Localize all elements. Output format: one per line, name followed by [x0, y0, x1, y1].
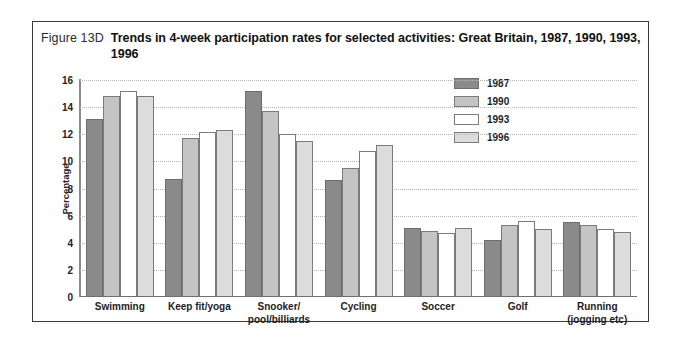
y-tick-label: 12 [62, 129, 73, 140]
bar [182, 138, 199, 297]
y-axis-title: Percentage [60, 163, 71, 214]
bar [376, 145, 393, 297]
figure-title: Trends in 4-week participation rates for… [111, 31, 641, 62]
bar [216, 130, 233, 297]
figure-frame: Figure 13D Trends in 4-week participatio… [32, 21, 649, 322]
x-axis-label: Running (jogging etc) [557, 301, 637, 326]
bar [438, 233, 455, 297]
bar [484, 240, 501, 297]
bar [199, 132, 216, 297]
bar [535, 229, 552, 297]
x-axis-line [80, 296, 637, 298]
bar [421, 231, 438, 297]
bar [137, 96, 154, 297]
figure-number: Figure 13D [41, 31, 111, 45]
bar [501, 225, 518, 297]
y-tick-label: 2 [67, 264, 73, 275]
x-axis-labels: SwimmingKeep fit/yogaSnooker/ pool/billi… [80, 301, 637, 326]
y-tick-label: 0 [67, 292, 73, 303]
bar [103, 96, 120, 297]
bar [342, 168, 359, 297]
bar [580, 225, 597, 297]
x-axis-label: Cycling [319, 301, 399, 326]
x-axis-label: Golf [478, 301, 558, 326]
bar-group [160, 80, 240, 297]
y-tick-label: 16 [62, 75, 73, 86]
x-axis-label: Snooker/ pool/billiards [239, 301, 319, 326]
plot-area: 1614121086420 Percentage [80, 80, 637, 297]
bar [86, 119, 103, 297]
bar-groups [80, 80, 637, 297]
bar [597, 229, 614, 297]
bar [279, 134, 296, 297]
bar [262, 111, 279, 297]
bar [614, 232, 631, 297]
plot-inner: 1614121086420 Percentage [80, 80, 637, 297]
y-tick-label: 14 [62, 102, 73, 113]
bar-group [478, 80, 558, 297]
bar [245, 91, 262, 297]
x-axis-label: Keep fit/yoga [160, 301, 240, 326]
bar [563, 222, 580, 297]
bar [404, 228, 421, 297]
x-axis-label: Swimming [80, 301, 160, 326]
bar-group [239, 80, 319, 297]
bar [165, 179, 182, 297]
bar-group [319, 80, 399, 297]
bar-group [80, 80, 160, 297]
bar [120, 91, 137, 297]
bar [518, 221, 535, 297]
bar [325, 180, 342, 297]
bar [296, 141, 313, 297]
y-tick-label: 4 [67, 237, 73, 248]
bar-group [398, 80, 478, 297]
x-axis-label: Soccer [398, 301, 478, 326]
bar [455, 228, 472, 297]
bar [359, 151, 376, 297]
bar-group [557, 80, 637, 297]
figure-heading: Figure 13D Trends in 4-week participatio… [41, 31, 641, 62]
